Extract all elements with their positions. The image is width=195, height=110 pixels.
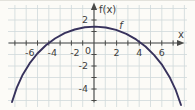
plot-svg: -6-4-202462-2-4f(x)xf [0,1,195,110]
x-tick-label: 2 [114,47,120,58]
x-axis-arrowhead [177,40,185,46]
function-graph-figure: -6-4-202462-2-4f(x)xf [0,0,195,110]
x-tick-label: 6 [159,47,165,58]
y-tick-label: -4 [79,83,88,94]
y-axis-arrowhead [91,3,97,11]
x-axis-label: x [178,29,184,40]
x-tick-label: -2 [70,47,79,58]
y-tick-label: 2 [82,14,88,25]
origin-tick-label: 0 [85,45,91,56]
curve-label: f [119,20,124,31]
y-axis-label: f(x) [99,4,116,15]
x-tick-label: -4 [48,47,57,58]
y-tick-label: -2 [79,60,88,71]
x-tick-label: -6 [25,47,34,58]
x-tick-label: 4 [136,47,142,58]
